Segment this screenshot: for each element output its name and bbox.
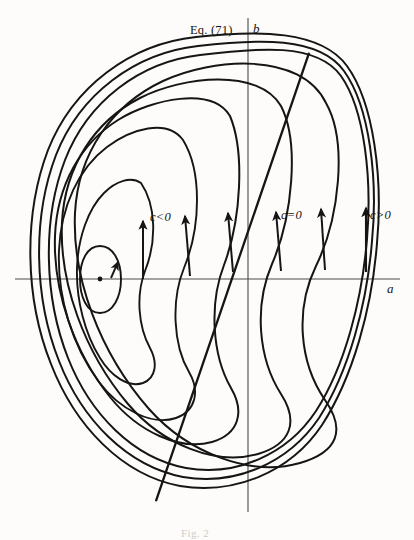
orbit-6 — [75, 64, 339, 467]
figure-canvas — [0, 0, 414, 540]
axes-group — [15, 18, 400, 512]
center-fixed-point — [98, 277, 103, 282]
figure-caption: Fig. 2 — [181, 528, 209, 539]
flow-arrow-orbit-4 — [228, 213, 233, 272]
flow-arrow-orbit-6 — [321, 209, 325, 270]
a-axis-label: a — [387, 282, 394, 295]
branch-label-c-negative: c<0 — [150, 211, 171, 224]
branch-label-c-zero: c=0 — [281, 209, 302, 222]
eq-71-label: Eq. (71) — [190, 24, 233, 37]
phase-plane-figure: Eq. (71) b a c<0 c=0 c>0 Fig. 2 — [0, 0, 414, 540]
b-axis-label: b — [253, 22, 260, 35]
orbit-family — [30, 33, 378, 488]
orbit-2 — [77, 180, 155, 384]
flow-arrow-orbit-1 — [111, 262, 118, 278]
branch-label-c-positive: c>0 — [370, 209, 391, 222]
flow-arrow-orbit-3 — [185, 216, 190, 276]
orbit-7-outermost — [49, 50, 369, 470]
